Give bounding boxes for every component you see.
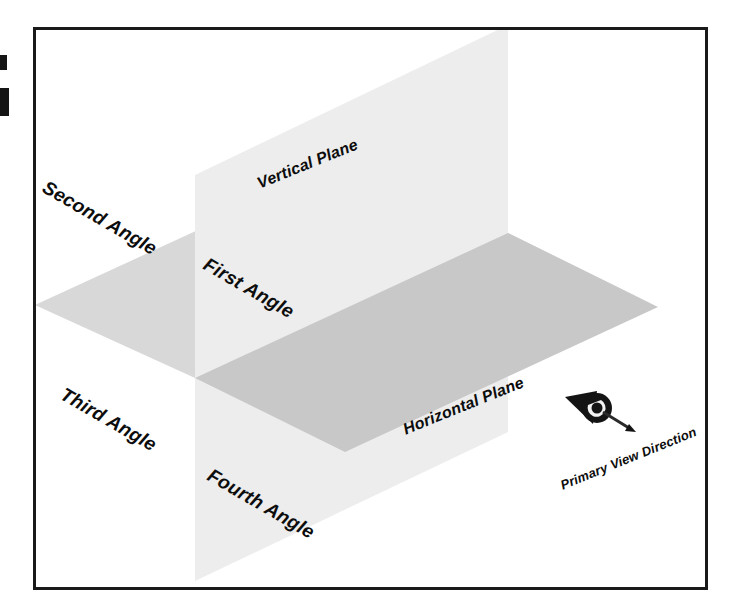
page-edge-artifact	[0, 88, 9, 116]
figure-frame	[33, 27, 708, 590]
figure-root: Second Angle First Angle Third Angle Fou…	[0, 0, 732, 611]
page-edge-artifact	[0, 55, 7, 70]
eye-arrow-icon	[563, 388, 639, 444]
